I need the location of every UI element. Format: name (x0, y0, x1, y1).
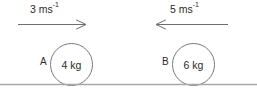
diagram-canvas: 3 ms-1 5 ms-1 A 4 kg B 6 kg (0, 0, 257, 103)
body-label-b: B (162, 56, 169, 67)
velocity-value-b: 5 ms (170, 3, 193, 15)
velocity-value-a: 3 ms (30, 3, 53, 15)
velocity-arrow-b-left (156, 20, 228, 29)
velocity-label-b: 5 ms-1 (170, 0, 199, 15)
mass-text-a: 4 kg (62, 59, 82, 71)
physics-diagram: 3 ms-1 5 ms-1 A 4 kg B 6 kg (0, 0, 257, 103)
velocity-exponent-a: -1 (53, 0, 59, 7)
mass-text-b: 6 kg (184, 59, 204, 71)
body-label-a: A (40, 56, 47, 67)
velocity-arrow-a-right (18, 20, 86, 29)
velocity-exponent-b: -1 (193, 0, 199, 7)
velocity-label-a: 3 ms-1 (30, 0, 59, 15)
